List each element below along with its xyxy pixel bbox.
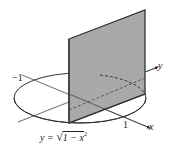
vertical-plane-surface (69, 10, 145, 123)
label-x-axis: x (149, 122, 153, 132)
label-negative-one: −1 (12, 73, 23, 83)
y-axis-front-segment (145, 67, 158, 72)
equation-radicand: 1 − x (63, 132, 84, 143)
sqrt-symbol: √ (56, 130, 63, 144)
equation-label: y = √1 − x2 (40, 131, 87, 143)
equation-lhs: y = (40, 132, 56, 143)
equation-exponent: 2 (84, 131, 87, 137)
label-one: 1 (123, 120, 128, 130)
label-y-axis: y (158, 61, 162, 71)
